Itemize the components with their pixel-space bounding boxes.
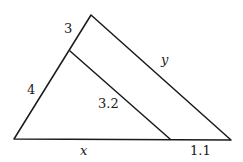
triangle-diagram: 3 4 y 3.2 x 1.1 bbox=[0, 0, 243, 162]
label-inner-parallel: 3.2 bbox=[98, 96, 119, 111]
label-lower-left-segment: 4 bbox=[27, 82, 35, 97]
label-upper-left-segment: 3 bbox=[64, 21, 72, 36]
outer-triangle bbox=[14, 15, 231, 140]
label-base-left: x bbox=[80, 143, 88, 158]
label-base-right: 1.1 bbox=[190, 143, 211, 158]
label-hypotenuse: y bbox=[160, 52, 169, 67]
inner-parallel-line bbox=[70, 51, 170, 139]
